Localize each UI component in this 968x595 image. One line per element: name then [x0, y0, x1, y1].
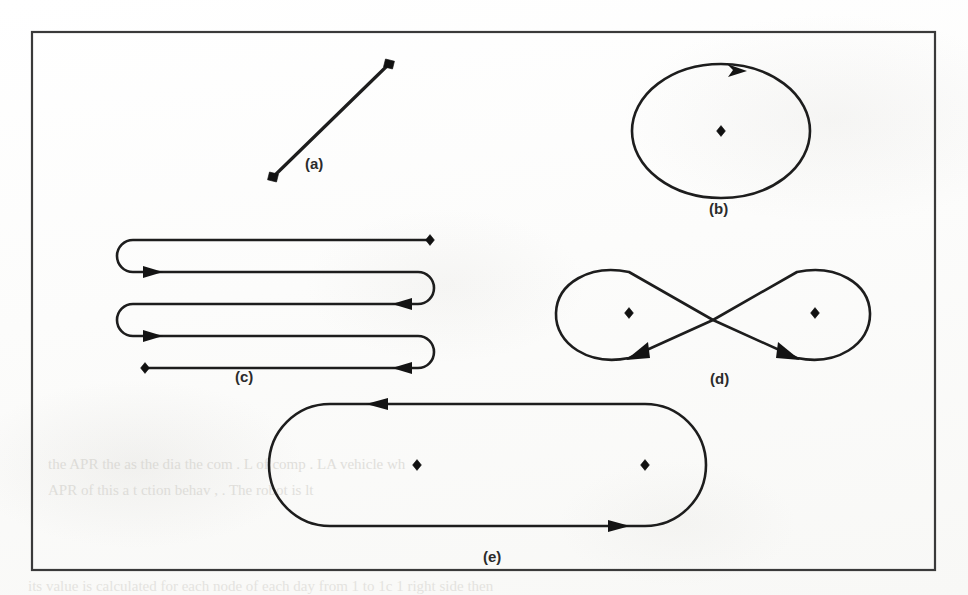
loop-e-left-marker: [413, 460, 422, 471]
path-c-arrowhead-pass3-right: [392, 298, 412, 310]
path-d-arrowhead-right: [776, 342, 800, 360]
loop-e-arrowhead-bottom-right: [608, 520, 630, 532]
loop-b-center-marker: [717, 126, 726, 137]
path-d-right-lobe: [713, 270, 870, 360]
loop-e-arrowhead-top-left: [366, 398, 388, 410]
panel-label-e: (e): [483, 548, 501, 565]
figure-drawing-canvas: [0, 0, 968, 595]
path-c-end-marker: [426, 235, 435, 246]
path-d-left-lobe: [556, 270, 713, 360]
panel-label-d: (d): [710, 370, 729, 387]
panel-a-single-line-segment: [268, 59, 395, 182]
path-c-arrowhead-pass1-right: [392, 362, 412, 374]
segment-a-line: [273, 65, 388, 177]
path-d-arrowhead-left: [626, 342, 650, 360]
path-c-start-marker: [141, 363, 150, 374]
path-c-serpentine: [117, 240, 434, 368]
path-d-left-lobe-marker: [625, 308, 634, 319]
path-d-right-lobe-marker: [811, 308, 820, 319]
panel-label-b: (b): [709, 200, 728, 217]
path-c-arrowhead-pass2-left: [143, 330, 163, 342]
panel-c-boustrophedon-path: [117, 235, 434, 374]
panel-d-figure-eight: [556, 270, 870, 360]
panel-label-a: (a): [305, 155, 323, 172]
loop-e-right-marker: [641, 460, 650, 471]
panel-b-ellipse-loop: [632, 64, 810, 198]
figure-frame-border: [32, 32, 935, 570]
panel-e-stadium-loop: [269, 398, 706, 532]
panel-label-c: (c): [235, 368, 253, 385]
scanned-page: the APR the as the dia the com . L of co…: [0, 0, 968, 595]
path-c-arrowhead-pass4-left: [143, 266, 163, 278]
